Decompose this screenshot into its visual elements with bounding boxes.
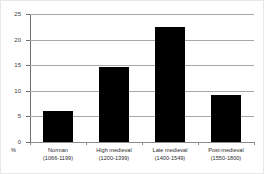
gridline-20: [30, 40, 254, 41]
x-tick-mark-3: [198, 142, 199, 145]
x-category-name: Late medieval: [142, 146, 198, 154]
x-category-name: Post-medieval: [198, 146, 254, 154]
x-category-label: Post-medieval(1550-1800): [198, 146, 254, 162]
gridline-10: [30, 91, 254, 92]
x-category-range: (1550-1800): [198, 154, 254, 162]
x-category-label: High medieval(1200-1399): [86, 146, 142, 162]
y-tick-label-5: 5: [1, 113, 23, 119]
gridline-25: [30, 14, 254, 15]
bar: [99, 67, 129, 142]
x-category-name: Norman: [30, 146, 86, 154]
x-category-range: (1400-1549): [142, 154, 198, 162]
bar: [155, 27, 185, 142]
bar: [43, 111, 73, 142]
x-category-name: High medieval: [86, 146, 142, 154]
bar-chart-figure: 0510152025 Norman(1066-1199)High medieva…: [0, 0, 264, 174]
x-tick-mark-0: [30, 142, 31, 145]
y-tick-label-15: 15: [1, 62, 23, 68]
bar: [211, 95, 241, 142]
y-axis-unit-label: %: [11, 146, 16, 154]
x-category-label: Late medieval(1400-1549): [142, 146, 198, 162]
y-tick-label-25: 25: [1, 11, 23, 17]
x-category-label: Norman(1066-1199): [30, 146, 86, 162]
y-tick-label-20: 20: [1, 37, 23, 43]
y-tick-label-10: 10: [1, 88, 23, 94]
x-tick-mark-4: [254, 142, 255, 145]
gridline-15: [30, 65, 254, 66]
y-tick-label-0: 0: [1, 139, 23, 145]
x-tick-mark-2: [142, 142, 143, 145]
x-category-range: (1200-1399): [86, 154, 142, 162]
plot-area: [30, 14, 254, 142]
x-tick-mark-1: [86, 142, 87, 145]
x-category-range: (1066-1199): [30, 154, 86, 162]
